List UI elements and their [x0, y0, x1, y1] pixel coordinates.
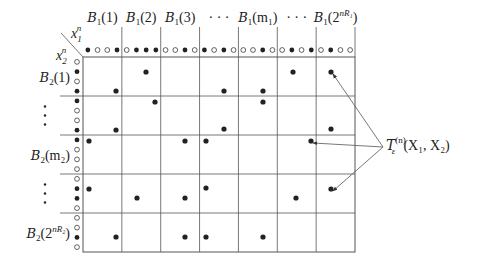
empty-sequence-dot	[192, 48, 197, 53]
empty-sequence-dot	[75, 206, 80, 211]
filled-sequence-dot	[289, 48, 294, 53]
row-header-1: B2(1)	[39, 70, 71, 87]
empty-sequence-dot	[75, 167, 80, 172]
empty-sequence-dot	[280, 48, 285, 53]
typical-pair-dot	[293, 195, 298, 200]
empty-sequence-dot	[95, 48, 100, 53]
typical-pair-dot	[86, 138, 91, 143]
corner-label: x1n x2n	[55, 23, 83, 66]
typical-pair-dot	[203, 185, 208, 190]
typical-pair-dot	[328, 186, 333, 191]
empty-sequence-dot	[212, 48, 217, 53]
typical-set-label: T(n)ε(X₁, X₂)	[386, 135, 450, 156]
typical-pair-dot	[143, 69, 148, 74]
column-header-5: B1(m₁)	[237, 10, 277, 27]
empty-sequence-dot	[251, 48, 256, 53]
filled-sequence-dot	[75, 137, 80, 142]
filled-sequence-dot	[328, 48, 333, 53]
row-var-label: x2n	[55, 45, 67, 66]
empty-sequence-dot	[348, 48, 353, 53]
filled-sequence-dot	[85, 48, 90, 53]
annotation-arrow	[333, 74, 383, 147]
typical-pair-dot	[328, 69, 333, 74]
typical-set-diagram: x1n x2n B1(1)B1(2)B1(3)· · ·B1(m₁)· · ·B…	[0, 0, 485, 267]
empty-sequence-dot	[75, 225, 80, 230]
typical-pair-dot	[113, 88, 118, 93]
typical-pair-dot	[182, 234, 187, 239]
vertical-ellipsis-dot	[44, 192, 46, 194]
empty-sequence-dot	[75, 79, 80, 84]
filled-sequence-dot	[75, 186, 80, 191]
filled-sequence-dot	[75, 98, 80, 103]
empty-sequence-dot	[75, 147, 80, 152]
column-header-4: · · ·	[209, 10, 230, 25]
vertical-ellipsis-dot	[44, 123, 46, 125]
empty-sequence-dot	[319, 48, 324, 53]
annotation-arrow	[313, 143, 383, 147]
column-sequence-markers	[85, 48, 352, 53]
filled-sequence-dot	[75, 128, 80, 133]
column-header-3: B1(3)	[164, 10, 196, 27]
empty-sequence-dot	[173, 48, 178, 53]
typical-pair-dot	[113, 127, 118, 132]
typical-pair-dot	[203, 234, 208, 239]
empty-sequence-dot	[299, 48, 304, 53]
empty-sequence-dot	[163, 48, 168, 53]
row-header-5: B2(2nR₂)	[25, 224, 70, 243]
typical-pair-dot	[221, 126, 226, 131]
filled-sequence-dot	[183, 48, 188, 53]
empty-sequence-dot	[75, 245, 80, 250]
col-var-label: x1n	[70, 23, 82, 44]
typical-pair-dot	[308, 138, 313, 143]
empty-sequence-dot	[231, 48, 236, 53]
row-sequence-markers	[75, 59, 80, 249]
filled-sequence-dot	[75, 196, 80, 201]
vertical-ellipsis-dot	[44, 114, 46, 116]
column-headers: B1(1)B1(2)B1(3)· · ·B1(m₁)· · ·B1(2nR₁)	[86, 8, 357, 27]
typical-pair-dot	[152, 99, 157, 104]
filled-sequence-dot	[75, 89, 80, 94]
empty-sequence-dot	[75, 215, 80, 220]
row-headers: B2(1)B2(m₂)B2(2nR₂)	[25, 70, 70, 243]
empty-sequence-dot	[75, 118, 80, 123]
filled-sequence-dot	[221, 48, 226, 53]
empty-sequence-dot	[75, 59, 80, 64]
column-header-6: · · ·	[286, 10, 307, 25]
typical-pair-dot	[203, 138, 208, 143]
filled-sequence-dot	[115, 48, 120, 53]
annotation-arrows	[313, 74, 383, 191]
filled-sequence-dot	[144, 48, 149, 53]
typical-pair-dot	[260, 234, 265, 239]
empty-sequence-dot	[75, 108, 80, 113]
empty-sequence-dot	[105, 48, 110, 53]
empty-sequence-dot	[241, 48, 246, 53]
typical-pair-dot	[328, 126, 333, 131]
vertical-ellipsis-dot	[44, 183, 46, 185]
empty-sequence-dot	[75, 157, 80, 162]
annotation-arrow	[333, 147, 383, 191]
typical-pair-dot	[260, 88, 265, 93]
filled-sequence-dot	[153, 48, 158, 53]
vertical-ellipsis-dot	[44, 105, 46, 107]
typical-pair-dot	[182, 138, 187, 143]
jointly-typical-pairs	[86, 69, 333, 239]
empty-sequence-dot	[270, 48, 275, 53]
typical-pair-dot	[290, 69, 295, 74]
filled-sequence-dot	[134, 48, 139, 53]
typical-pair-dot	[221, 88, 226, 93]
typical-pair-dot	[86, 186, 91, 191]
filled-sequence-dot	[260, 48, 265, 53]
vertical-ellipsis-dot	[44, 201, 46, 203]
column-header-7: B1(2nR₁)	[313, 8, 358, 27]
filled-sequence-dot	[202, 48, 207, 53]
column-header-2: B1(2)	[125, 10, 157, 27]
empty-sequence-dot	[75, 176, 80, 181]
filled-sequence-dot	[309, 48, 314, 53]
row-header-3: B2(m₂)	[30, 148, 70, 165]
filled-sequence-dot	[75, 69, 80, 74]
column-header-1: B1(1)	[86, 10, 118, 27]
typical-pair-dot	[113, 234, 118, 239]
empty-sequence-dot	[124, 48, 129, 53]
typical-pair-dot	[134, 195, 139, 200]
filled-sequence-dot	[75, 235, 80, 240]
